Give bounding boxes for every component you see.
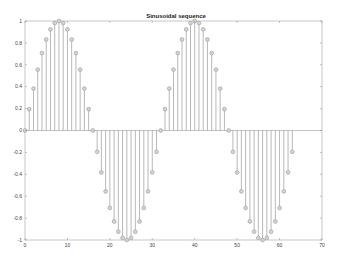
- stem-marker-icon: [244, 206, 248, 210]
- stem-marker-icon: [125, 238, 129, 242]
- stem-marker-icon: [61, 21, 65, 25]
- y-tick-label: 1: [19, 18, 22, 24]
- stem-marker-icon: [282, 189, 286, 193]
- stem-marker-icon: [273, 220, 277, 224]
- stem-marker-icon: [104, 189, 108, 193]
- stem-marker-icon: [248, 220, 252, 224]
- stem-marker-icon: [278, 206, 282, 210]
- stem-marker-icon: [95, 150, 99, 154]
- stem-marker-icon: [167, 87, 171, 91]
- stem-marker-icon: [49, 27, 53, 31]
- stem-marker-icon: [32, 87, 36, 91]
- stem-marker-icon: [57, 19, 61, 23]
- stem-marker-icon: [142, 206, 146, 210]
- stem-marker-icon: [133, 230, 137, 234]
- stem-marker-icon: [36, 68, 40, 72]
- stem-marker-icon: [66, 27, 70, 31]
- stem-marker-icon: [189, 21, 193, 25]
- y-tick-label: 0.8: [15, 40, 22, 46]
- stem-marker-icon: [239, 189, 243, 193]
- x-tick-label: 0: [24, 242, 27, 248]
- y-tick-label: -0.6: [13, 193, 22, 199]
- stem-marker-icon: [180, 38, 184, 42]
- stem-marker-icon: [87, 107, 91, 111]
- x-tick-label: 30: [150, 242, 156, 248]
- stem-marker-icon: [184, 27, 188, 31]
- stem-marker-icon: [40, 51, 44, 55]
- stem-marker-icon: [286, 171, 290, 175]
- y-tick-label: 0.6: [15, 62, 22, 68]
- y-tick-label: -1: [18, 237, 23, 243]
- stem-marker-icon: [231, 150, 235, 154]
- stem-marker-icon: [210, 51, 214, 55]
- stem-marker-icon: [256, 236, 260, 240]
- stem-marker-icon: [290, 150, 294, 154]
- stem-marker-icon: [159, 129, 163, 133]
- stem-marker-icon: [121, 236, 125, 240]
- stem-marker-icon: [83, 87, 87, 91]
- stem-marker-icon: [163, 107, 167, 111]
- stem-marker-icon: [74, 51, 78, 55]
- y-tick-label: 0: [19, 127, 22, 133]
- stem-marker-icon: [108, 206, 112, 210]
- stem-marker-icon: [265, 236, 269, 240]
- stem-marker-icon: [138, 220, 142, 224]
- stem-marker-icon: [78, 68, 82, 72]
- stem-marker-icon: [172, 68, 176, 72]
- chart-figure: Sinusoidal sequence 010203040506070 -1-0…: [0, 0, 341, 256]
- x-tick-label: 10: [65, 242, 71, 248]
- stem-marker-icon: [261, 238, 265, 242]
- chart-title: Sinusoidal sequence: [146, 13, 206, 19]
- stem-point: [159, 129, 163, 133]
- y-tick-label: -0.2: [13, 149, 22, 155]
- stem-marker-icon: [53, 21, 57, 25]
- stem-marker-icon: [218, 87, 222, 91]
- stem-marker-icon: [155, 150, 159, 154]
- stem-marker-icon: [252, 230, 256, 234]
- y-tick-label: -0.8: [13, 215, 22, 221]
- stem-marker-icon: [206, 38, 210, 42]
- stem-marker-icon: [116, 230, 120, 234]
- stem-marker-icon: [112, 220, 116, 224]
- stem-marker-icon: [91, 129, 95, 133]
- stem-marker-icon: [214, 68, 218, 72]
- stem-marker-icon: [99, 171, 103, 175]
- stem-marker-icon: [223, 107, 227, 111]
- stem-marker-icon: [197, 21, 201, 25]
- stem-point: [91, 129, 95, 133]
- stem-marker-icon: [269, 230, 273, 234]
- x-tick-label: 50: [234, 242, 240, 248]
- x-tick-label: 70: [319, 242, 325, 248]
- stem-marker-icon: [176, 51, 180, 55]
- x-tick-label: 60: [277, 242, 283, 248]
- y-tick-label: -0.4: [13, 171, 22, 177]
- stem-marker-icon: [44, 38, 48, 42]
- stem-marker-icon: [129, 236, 133, 240]
- x-tick-label: 20: [107, 242, 113, 248]
- stem-marker-icon: [27, 107, 31, 111]
- y-tick-label: 0.4: [15, 83, 22, 89]
- stem-marker-icon: [146, 189, 150, 193]
- stem-point: [227, 129, 231, 133]
- x-tick-label: 40: [192, 242, 198, 248]
- stem-marker-icon: [150, 171, 154, 175]
- stem-marker-icon: [70, 38, 74, 42]
- stem-marker-icon: [227, 129, 231, 133]
- y-tick-label: 0.2: [15, 105, 22, 111]
- stem-marker-icon: [201, 27, 205, 31]
- stem-marker-icon: [235, 171, 239, 175]
